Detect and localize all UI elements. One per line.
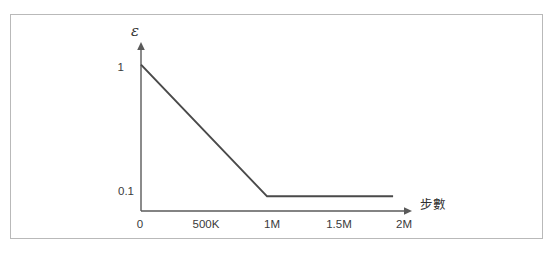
x-axis-arrowhead (404, 207, 412, 215)
y-tick-label-1: 1 (118, 62, 124, 74)
y-axis-title: ε (131, 24, 139, 39)
chart-plot-svg (0, 0, 554, 254)
screenshot-root: ε 1 0.1 0 500K 1M 1.5M 2M 步數 (0, 0, 554, 254)
x-tick-label-1m: 1M (264, 219, 280, 231)
epsilon-decay-line (141, 65, 393, 197)
x-tick-label-0: 0 (137, 219, 143, 231)
x-tick-label-500k: 500K (193, 219, 220, 231)
x-tick-label-1-5m: 1.5M (326, 219, 352, 231)
y-axis-arrowhead (137, 42, 145, 50)
x-axis-title: 步數 (420, 199, 446, 212)
y-tick-label-0-1: 0.1 (118, 186, 134, 198)
epsilon-decay-chart: ε 1 0.1 0 500K 1M 1.5M 2M 步數 (0, 0, 554, 254)
x-tick-label-2m: 2M (396, 219, 412, 231)
